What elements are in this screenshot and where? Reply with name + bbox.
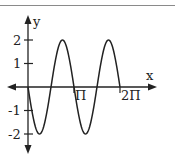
y-axis-up-arrow-icon: [25, 15, 32, 24]
x-axis-left-arrow-icon: [7, 84, 16, 91]
y-tick-label-2: 2: [13, 33, 21, 48]
sine-graph: y x 2 1 -1 -2 Π 2Π: [0, 0, 175, 157]
x-axis-right-arrow-icon: [148, 84, 157, 91]
y-tick-label-neg1: -1: [8, 103, 21, 118]
x-axis-label: x: [146, 68, 154, 83]
x-tick-label-2pi: 2Π: [121, 88, 141, 103]
y-tick-label-neg2: -2: [8, 127, 21, 142]
y-axis-label: y: [32, 14, 41, 29]
y-tick-label-1: 1: [13, 56, 21, 71]
y-axis-down-arrow-icon: [25, 145, 32, 154]
